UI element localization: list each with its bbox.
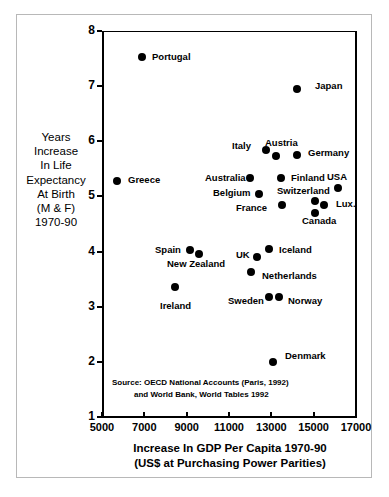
data-point-marker [334, 184, 342, 192]
y-tick-mark [97, 85, 102, 87]
data-point-marker [171, 283, 179, 291]
data-point-label: Spain [155, 245, 181, 255]
data-point-label: Italy [232, 141, 251, 151]
y-axis-title-line: 1970-90 [14, 215, 98, 229]
y-tick-label: 8 [65, 24, 95, 36]
x-tick-label: 7000 [121, 421, 167, 433]
y-tick-mark [97, 251, 102, 253]
y-axis-title-line: Increase [14, 144, 98, 158]
scatter-chart: 12345678 5000700090001100013000150001700… [0, 0, 389, 497]
data-point-label: Greece [128, 175, 160, 185]
data-point-marker [275, 293, 283, 301]
data-point-label: Ireland [160, 301, 191, 311]
data-point-label: Finland [291, 173, 325, 183]
y-tick-mark [97, 306, 102, 308]
y-axis-line [102, 31, 104, 418]
data-point-marker [253, 253, 261, 261]
data-point-label: Austria [265, 138, 298, 148]
x-tick-mark [270, 412, 272, 418]
x-tick-mark [313, 412, 315, 418]
source-line2: and World Bank, World Tables 1992 [112, 389, 289, 401]
data-point-label: Denmark [285, 351, 326, 361]
x-tick-mark [143, 412, 145, 418]
data-point-marker [265, 245, 273, 253]
data-point-marker [113, 177, 121, 185]
plot-top-border [102, 31, 357, 32]
data-point-label: Australia [205, 173, 246, 183]
x-axis-title-line2: (US$ at Purchasing Power Parities) [95, 456, 365, 471]
y-axis-title-line: Years [14, 130, 98, 144]
y-tick-mark [97, 361, 102, 363]
source-note: Source: OECD National Accounts (Paris, 1… [112, 377, 289, 401]
source-line1: OECD National Accounts (Paris, 1992) [142, 378, 289, 387]
y-tick-label: 4 [65, 245, 95, 257]
data-point-label: USA [327, 172, 347, 182]
data-point-marker [293, 85, 301, 93]
x-tick-label: 15000 [291, 421, 337, 433]
data-point-label: Iceland [279, 245, 312, 255]
y-tick-mark [97, 30, 102, 32]
x-tick-label: 9000 [164, 421, 210, 433]
data-point-label: Germany [308, 148, 349, 158]
x-tick-mark [355, 412, 357, 418]
data-point-label: Belgium [213, 188, 250, 198]
data-point-marker [269, 358, 277, 366]
y-tick-label: 2 [65, 355, 95, 367]
x-axis-title-line1: Increase In GDP Per Capita 1970-90 [95, 441, 365, 456]
x-tick-label: 17000 [333, 421, 379, 433]
y-axis-title: YearsIncreaseIn LifeExpectancyAt Birth(M… [14, 130, 98, 229]
data-point-marker [246, 174, 254, 182]
data-point-marker [255, 190, 263, 198]
x-tick-mark [101, 412, 103, 418]
y-axis-title-line: At Birth [14, 187, 98, 201]
x-tick-label: 5000 [79, 421, 125, 433]
source-prefix: Source: [112, 378, 142, 387]
data-point-label: Switzerland [277, 186, 330, 196]
y-tick-label: 7 [65, 79, 95, 91]
plot-right-border [355, 31, 357, 418]
data-point-label: UK [236, 250, 250, 260]
data-point-marker [272, 152, 280, 160]
data-point-marker [278, 201, 286, 209]
data-point-marker [138, 53, 146, 61]
data-point-marker [265, 293, 273, 301]
data-point-label: Sweden [228, 296, 264, 306]
data-point-label: Canada [302, 216, 336, 226]
data-point-marker [293, 151, 301, 159]
y-tick-label: 3 [65, 300, 95, 312]
x-tick-mark [186, 412, 188, 418]
data-point-marker [311, 197, 319, 205]
data-point-label: Portugal [152, 52, 191, 62]
x-tick-mark [228, 412, 230, 418]
data-point-marker [186, 246, 194, 254]
data-point-label: New Zealand [167, 259, 225, 269]
y-axis-title-line: In Life [14, 158, 98, 172]
x-tick-label: 11000 [206, 421, 252, 433]
y-axis-title-line: Expectancy [14, 173, 98, 187]
y-axis-title-line: (M & F) [14, 201, 98, 215]
x-tick-label: 13000 [248, 421, 294, 433]
data-point-marker [277, 174, 285, 182]
data-point-label: France [236, 203, 267, 213]
data-point-label: Japan [315, 81, 342, 91]
data-point-label: Norway [288, 296, 322, 306]
data-point-marker [320, 201, 328, 209]
data-point-label: Netherlands [262, 271, 317, 281]
data-point-marker [247, 268, 255, 276]
data-point-label: Lux. [336, 199, 356, 209]
x-axis-title: Increase In GDP Per Capita 1970-90 (US$ … [95, 441, 365, 471]
